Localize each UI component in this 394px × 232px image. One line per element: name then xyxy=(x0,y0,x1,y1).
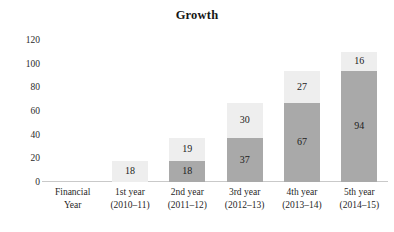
bar-segment-value: 16 xyxy=(354,56,364,66)
bar-group[interactable]: 2767 xyxy=(284,71,320,182)
bar-segment-dark[interactable]: 67 xyxy=(284,103,320,182)
x-category-label-line: 4th year xyxy=(271,186,333,199)
y-tick-label: 20 xyxy=(0,153,40,163)
x-category-label-line: Financial xyxy=(42,186,104,199)
bar-group[interactable]: 1918 xyxy=(169,138,205,182)
growth-stacked-bar-chart: Growth 020406080100120 18191830372767169… xyxy=(0,0,394,232)
y-tick-label: 60 xyxy=(0,106,40,116)
bar-segment-value: 94 xyxy=(354,121,364,131)
x-category-label-line: (2014–15) xyxy=(328,199,390,212)
bar-segment-dark[interactable]: 18 xyxy=(169,161,205,182)
bar-segment-value: 30 xyxy=(240,115,250,125)
bar-segment-value: 27 xyxy=(297,82,307,92)
chart-title: Growth xyxy=(0,8,394,23)
x-category-label-line: (2011–12) xyxy=(156,199,218,212)
bar-segment-value: 19 xyxy=(182,144,192,154)
bar-segment-light[interactable]: 19 xyxy=(169,138,205,160)
bar-group[interactable]: 3037 xyxy=(227,103,263,182)
x-category-label: FinancialYear xyxy=(42,186,104,211)
x-category-label-line: 3rd year xyxy=(214,186,276,199)
bar-segment-light[interactable]: 18 xyxy=(112,161,148,182)
x-category-label: 4th year(2013–14) xyxy=(271,186,333,211)
x-category-label-line: Year xyxy=(42,199,104,212)
bar-segment-dark[interactable]: 37 xyxy=(227,138,263,182)
x-category-label-line: (2012–13) xyxy=(214,199,276,212)
y-axis: 020406080100120 xyxy=(0,0,40,232)
y-tick-label: 40 xyxy=(0,130,40,140)
x-category-label-line: (2013–14) xyxy=(271,199,333,212)
bar-group[interactable]: 1694 xyxy=(341,52,377,182)
x-category-label-line: (2010–11) xyxy=(99,199,161,212)
bar-segment-light[interactable]: 27 xyxy=(284,71,320,103)
y-tick-label: 120 xyxy=(0,35,40,45)
plot-area: 181918303727671694 xyxy=(44,40,388,182)
bar-segment-value: 67 xyxy=(297,137,307,147)
bar-segment-value: 18 xyxy=(182,166,192,176)
bar-segment-light[interactable]: 16 xyxy=(341,52,377,71)
x-category-label: 2nd year(2011–12) xyxy=(156,186,218,211)
x-category-label: 1st year(2010–11) xyxy=(99,186,161,211)
x-axis: FinancialYear1st year(2010–11)2nd year(2… xyxy=(44,186,388,230)
x-category-label-line: 1st year xyxy=(99,186,161,199)
y-tick-label: 0 xyxy=(0,177,40,187)
bar-segment-dark[interactable]: 94 xyxy=(341,71,377,182)
y-tick-label: 100 xyxy=(0,59,40,69)
x-category-label-line: 2nd year xyxy=(156,186,218,199)
bar-group[interactable]: 18 xyxy=(112,161,148,182)
y-tick-label: 80 xyxy=(0,82,40,92)
bar-segment-light[interactable]: 30 xyxy=(227,103,263,139)
bar-segment-value: 37 xyxy=(240,155,250,165)
x-category-label: 5th year(2014–15) xyxy=(328,186,390,211)
x-category-label-line: 5th year xyxy=(328,186,390,199)
bar-segment-value: 18 xyxy=(125,166,135,176)
x-category-label: 3rd year(2012–13) xyxy=(214,186,276,211)
